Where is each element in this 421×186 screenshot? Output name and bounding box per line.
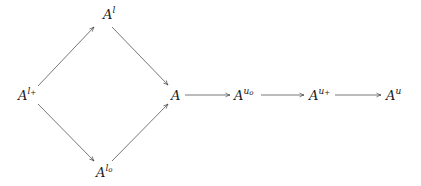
node-base: A [234,88,243,103]
node-A_u: Au [386,89,401,102]
superscript-letter: u [395,86,401,96]
node-A_lo: Alo [96,166,113,179]
node-base: A [386,88,395,103]
arrow-A_l-to-A [112,27,168,85]
node-A: A [171,89,180,102]
arrow-A_lo-to-A [112,104,168,161]
commutative-diagram: Al+AlAloAAuoAu+Au [0,0,421,186]
node-superscript: u [395,86,401,96]
node-superscript: lo [105,163,112,173]
superscript-subscript: o [249,89,253,97]
superscript-subscript: + [324,89,330,97]
node-A_uplus: Au+ [309,89,330,102]
superscript-subscript: + [30,89,36,97]
node-superscript: l [112,5,115,15]
node-base: A [103,7,112,22]
node-base: A [18,88,27,103]
arrow-A_lplus-to-A_lo [38,104,94,161]
diagram-arrows [0,0,421,186]
arrow-A_lplus-to-A_l [38,27,94,86]
node-base: A [171,88,180,103]
node-A_uo: Auo [234,89,253,102]
node-superscript: u+ [318,86,330,96]
node-A_l: Al [103,8,115,21]
superscript-letter: l [112,5,115,15]
node-A_lplus: Al+ [18,89,36,102]
node-base: A [96,165,105,180]
node-superscript: uo [243,86,253,96]
node-superscript: l+ [27,86,36,96]
superscript-subscript: o [108,166,112,174]
node-base: A [309,88,318,103]
